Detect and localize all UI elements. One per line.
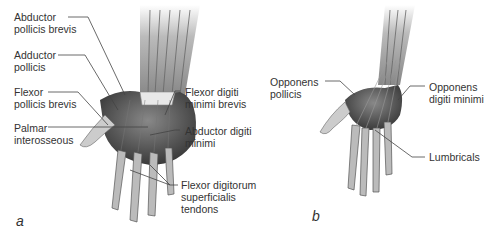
- label-abductor-pollicis-brevis: Abductor pollicis brevis: [14, 11, 76, 35]
- panel-letter-b: b: [312, 208, 320, 224]
- label-opponens-digiti-minimi: Opponens digiti minimi: [429, 81, 484, 105]
- hand-b: [320, 5, 415, 196]
- label-flexor-digiti-minimi-brevis: Flexor digiti minimi brevis: [185, 86, 246, 110]
- label-lumbricals: Lumbricals: [429, 151, 480, 163]
- label-adductor-pollicis: Adductor pollicis: [14, 49, 56, 73]
- label-flexor-digitorum-superficialis-tendons: Flexor digitorum superficialis tendons: [181, 179, 256, 215]
- label-palmar-interosseous: Palmar interosseous: [14, 122, 74, 146]
- label-opponens-pollicis: Opponens pollicis: [270, 76, 318, 100]
- label-abductor-digiti-minimi: Abductor digiti minimi: [185, 125, 252, 149]
- panel-letter-a: a: [16, 213, 24, 229]
- label-flexor-pollicis-brevis: Flexor pollicis brevis: [14, 86, 76, 110]
